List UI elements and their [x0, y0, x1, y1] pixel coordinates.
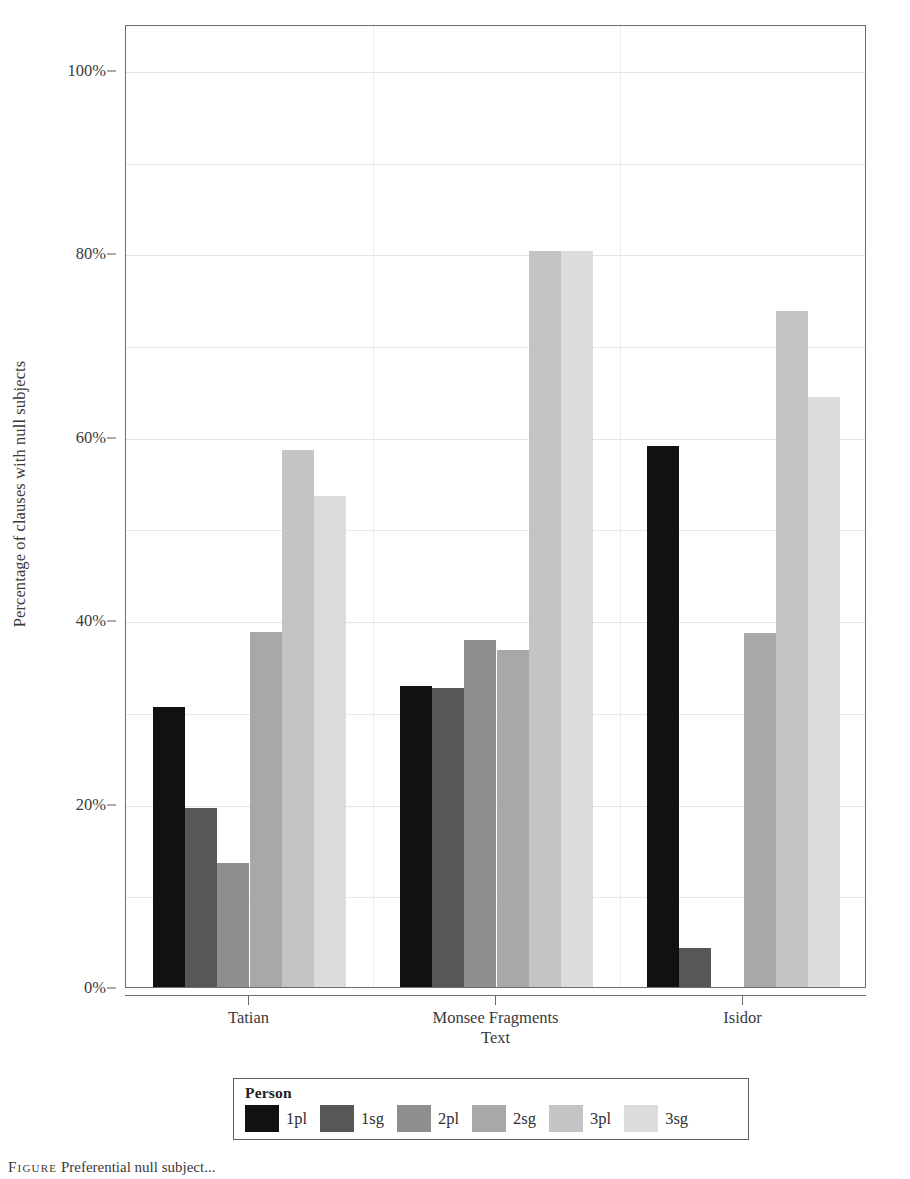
gridline-vertical [373, 26, 374, 987]
bar [776, 311, 808, 987]
y-axis-title-text: Percentage of clauses with null subjects [10, 361, 30, 628]
legend-label: 2sg [513, 1109, 536, 1129]
bar [153, 707, 185, 987]
bar [744, 633, 776, 987]
legend-label: 1sg [361, 1109, 384, 1129]
legend-swatch [472, 1105, 506, 1132]
caption-text: Preferential null subject... [61, 1159, 216, 1175]
gridline-major [126, 255, 865, 256]
figure-caption: Figure Preferential null subject... [8, 1159, 902, 1179]
figure-container: Percentage of clauses with null subjects… [0, 0, 910, 1179]
bar [250, 632, 282, 987]
bar [185, 808, 217, 987]
legend-item[interactable]: 1sg [320, 1105, 384, 1132]
y-tick-mark [107, 254, 116, 255]
y-tick-mark [107, 70, 116, 71]
legend-item[interactable]: 3pl [549, 1105, 611, 1132]
y-tick-label: 40% [76, 611, 106, 631]
bar [529, 251, 561, 987]
bar [808, 397, 840, 987]
legend-swatch [397, 1105, 431, 1132]
y-tick-label: 20% [76, 795, 106, 815]
bar [647, 446, 679, 987]
legend-label: 3sg [665, 1109, 688, 1129]
y-tick-label: 80% [76, 244, 106, 264]
gridline-minor [126, 347, 865, 348]
legend-item[interactable]: 2sg [472, 1105, 536, 1132]
x-tick-mark [742, 995, 743, 1005]
bar [561, 251, 593, 987]
x-tick-mark [495, 995, 496, 1005]
legend-item[interactable]: 3sg [624, 1105, 688, 1132]
legend-item[interactable]: 1pl [245, 1105, 307, 1132]
y-axis-title: Percentage of clauses with null subjects [0, 0, 40, 988]
legend-label: 2pl [438, 1109, 459, 1129]
legend-label: 3pl [590, 1109, 611, 1129]
y-tick-mark [107, 988, 116, 989]
legend-title: Person [245, 1084, 748, 1102]
x-tick-label: Monsee Fragments [432, 1008, 558, 1028]
y-tick-mark [107, 804, 116, 805]
x-tick-label: Tatian [228, 1008, 269, 1028]
y-axis-ticks: 0%20%40%60%80%100% [44, 25, 116, 988]
plot-panel [125, 25, 866, 988]
bar [464, 640, 496, 987]
y-tick-mark [107, 621, 116, 622]
y-tick-label: 0% [84, 978, 106, 998]
legend-items: 1pl1sg2pl2sg3pl3sg [245, 1105, 748, 1132]
x-axis-title: Text [125, 1028, 866, 1048]
gridline-major [126, 439, 865, 440]
y-tick-label: 60% [76, 428, 106, 448]
legend-swatch [549, 1105, 583, 1132]
gridline-vertical [620, 26, 621, 987]
gridline-major [126, 622, 865, 623]
legend-label: 1pl [286, 1109, 307, 1129]
gridline-major [126, 72, 865, 73]
gridline-minor [126, 530, 865, 531]
legend-swatch [245, 1105, 279, 1132]
legend-swatch [320, 1105, 354, 1132]
bar [282, 450, 314, 987]
y-tick-mark [107, 437, 116, 438]
bar [497, 650, 529, 988]
y-tick-label: 100% [68, 61, 107, 81]
bar [432, 688, 464, 987]
legend-item[interactable]: 2pl [397, 1105, 459, 1132]
bar [400, 686, 432, 987]
bar [314, 496, 346, 987]
x-tick-label: Isidor [723, 1008, 762, 1028]
legend: Person 1pl1sg2pl2sg3pl3sg [233, 1078, 749, 1140]
gridline-minor [126, 164, 865, 165]
bar [679, 948, 711, 987]
legend-swatch [624, 1105, 658, 1132]
bar [217, 863, 249, 987]
x-tick-mark [248, 995, 249, 1005]
caption-label: Figure [8, 1159, 57, 1175]
